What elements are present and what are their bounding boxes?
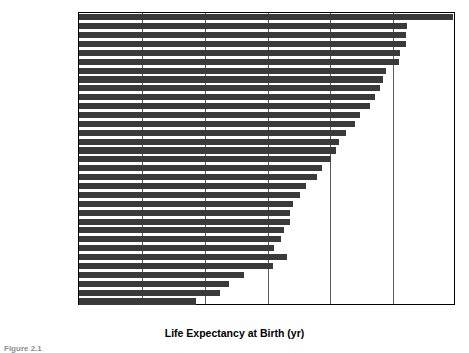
bar-turkey [79,130,346,136]
bar-china [79,112,360,118]
bar-angola [79,298,196,304]
bar-switzerland [79,50,400,56]
bar-row [79,31,456,40]
bar-row [79,208,456,217]
bar-monaco [79,14,453,20]
bar-row [79,13,456,22]
bar-row [79,226,456,235]
bar-row [79,84,456,93]
bar-argentina [79,94,375,100]
bar-row [79,235,456,244]
bar-japan [79,23,407,29]
bar-kiribati [79,210,290,216]
x-axis-title: Life Expectancy at Birth (yr) [0,327,469,339]
bar-row [79,57,456,66]
bar-romania [79,121,355,127]
bar-poland [79,103,370,109]
bar-united-states [79,76,383,82]
bar-row [79,288,456,297]
bar-ethiopia [79,263,273,269]
bar-row [79,93,456,102]
bar-row [79,199,456,208]
bar-madagascar [79,219,290,225]
bar-row [79,128,456,137]
bar-row [79,40,456,49]
bar-chad [79,290,220,296]
bar-row [79,66,456,75]
bar-row [79,155,456,164]
bar-row [79,75,456,84]
x-axis-tick-labels [0,311,469,325]
bar-denmark [79,68,386,74]
plot-area [78,12,455,305]
bar-row [79,146,456,155]
y-axis-labels [0,12,76,305]
bar-iraq [79,147,336,153]
bar-row [79,217,456,226]
bar-row [79,279,456,288]
x-axis-ticks [78,305,455,310]
bar-cambodia [79,227,284,233]
bar-row [79,22,456,31]
bar-singapore [79,41,406,47]
bar-burma [79,192,300,198]
bar-mongolia [79,165,322,171]
bar-row [79,173,456,182]
bar-row [79,191,456,200]
bar-cuba [79,85,380,91]
bar-row [79,102,456,111]
bar-indonesia [79,139,339,145]
bar-zambia [79,281,229,287]
bar-sudan [79,272,244,278]
bar-row [79,137,456,146]
bar-row [79,164,456,173]
bar-iran [79,156,331,162]
bar-row [79,253,456,262]
figure-caption: Figure 2.1 [4,344,42,353]
bar-kenya [79,254,287,260]
bar-row [79,182,456,191]
bar-guernsey [79,32,406,38]
bar-row [79,120,456,129]
bar-row [79,244,456,253]
bars-layer [79,13,454,304]
bar-bolivia [79,174,317,180]
bar-row [79,111,456,120]
bar-israel [79,59,399,65]
bar-row [79,262,456,271]
bar-korea-north [79,201,293,207]
bar-papua-new [79,183,306,189]
bar-haiti [79,236,281,242]
bar-row [79,270,456,279]
bar-row [79,49,456,58]
bar-western-sahara [79,245,274,251]
